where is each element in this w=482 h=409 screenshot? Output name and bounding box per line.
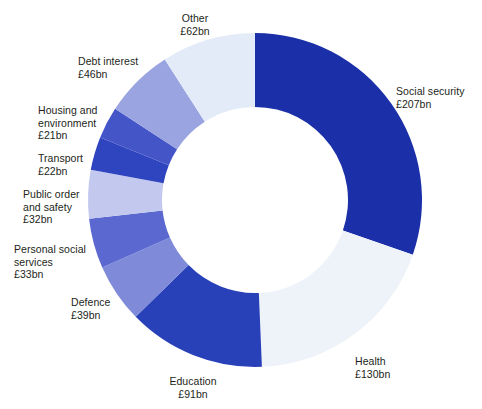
slice-label-transport: Transport £22bn [38, 152, 83, 177]
donut-chart: Social security £207bn Health £130bn Edu… [0, 0, 482, 409]
donut-slice-social-security [255, 33, 422, 255]
slice-label-education: Education £91bn [148, 375, 238, 400]
donut-slice-health [259, 230, 413, 366]
slice-label-defence: Defence £39bn [71, 296, 110, 321]
slice-label-public-order-and-safety: Public order and safety £32bn [23, 188, 80, 226]
slice-label-housing-and-environment: Housing and environment £21bn [38, 104, 98, 142]
slice-label-other: Other £62bn [155, 12, 235, 37]
donut-slices [88, 33, 422, 367]
slice-label-debt-interest: Debt interest £46bn [78, 55, 138, 80]
slice-label-social-security: Social security £207bn [396, 85, 464, 110]
slice-label-personal-social-services: Personal social services £33bn [14, 243, 86, 281]
slice-label-health: Health £130bn [355, 355, 390, 380]
